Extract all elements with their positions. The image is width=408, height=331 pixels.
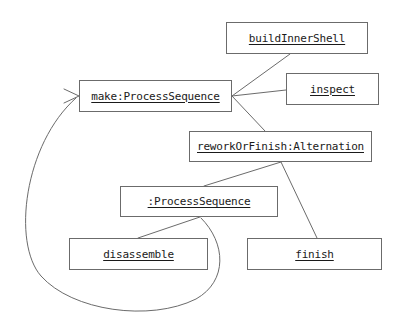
diagram-canvas: buildInnerShell make:ProcessSequence ins… bbox=[0, 0, 408, 331]
edge-reworkOrFinish-to-processSequence bbox=[204, 162, 281, 186]
node-buildInnerShell[interactable]: buildInnerShell bbox=[226, 22, 368, 54]
edge-make-to-buildInnerShell bbox=[232, 54, 290, 96]
edge-make-to-reworkOrFinish bbox=[232, 96, 265, 131]
edge-reworkOrFinish-to-finish bbox=[281, 162, 317, 238]
node-label-buildInnerShell: buildInnerShell bbox=[249, 32, 345, 45]
node-label-inspect: inspect bbox=[310, 83, 355, 96]
node-label-make-process-sequence: make:ProcessSequence bbox=[91, 90, 219, 103]
node-rework-or-finish-alternation[interactable]: reworkOrFinish:Alternation bbox=[189, 131, 372, 162]
arrowhead-make-inbound-arrowhead bbox=[64, 89, 79, 103]
edge-make-to-inspect bbox=[232, 90, 286, 96]
node-label-finish: finish bbox=[295, 248, 334, 261]
node-label-rework-or-finish-alternation: reworkOrFinish:Alternation bbox=[197, 140, 364, 153]
node-finish[interactable]: finish bbox=[247, 238, 382, 270]
node-make-process-sequence[interactable]: make:ProcessSequence bbox=[79, 80, 232, 112]
node-label-process-sequence: :ProcessSequence bbox=[148, 195, 251, 208]
node-process-sequence[interactable]: :ProcessSequence bbox=[120, 186, 278, 217]
node-inspect[interactable]: inspect bbox=[286, 73, 379, 105]
node-label-disassemble: disassemble bbox=[103, 248, 174, 261]
edge-processSequence-to-disassemble bbox=[138, 217, 200, 238]
node-disassemble[interactable]: disassemble bbox=[69, 238, 208, 270]
